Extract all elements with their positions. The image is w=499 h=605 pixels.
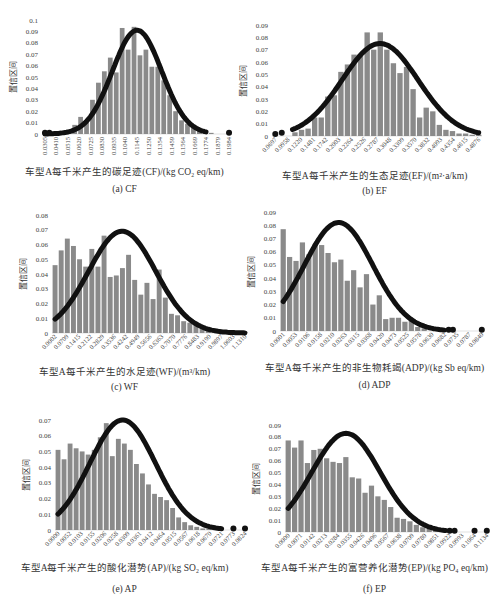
histogram-bar <box>407 521 412 532</box>
y-tick-label: 0 <box>265 133 269 141</box>
x-tick-label: 0.0410 <box>52 137 59 155</box>
y-axis-label: 置信区间 <box>238 65 248 97</box>
y-tick-label: 0.01 <box>26 119 39 127</box>
fit-point-marker <box>46 130 52 136</box>
x-tick-label: 0.1134 <box>472 531 490 549</box>
fit-point-marker <box>479 327 485 333</box>
histogram-bar <box>382 500 387 532</box>
histogram-bar <box>108 277 113 333</box>
y-tick-label: 0.06 <box>269 457 282 465</box>
y-tick-label: 0.08 <box>269 433 282 441</box>
y-tick-label: 0.06 <box>39 432 52 440</box>
histogram-bar <box>430 111 435 136</box>
histogram-bar <box>161 80 166 134</box>
y-tick-label: 0.02 <box>269 505 282 513</box>
histogram-bar <box>59 250 64 333</box>
histogram-bar <box>293 261 298 331</box>
histogram-bar <box>415 327 420 331</box>
histogram-bar <box>343 457 348 532</box>
histogram-bar <box>114 275 119 333</box>
y-tick-label: 0.03 <box>26 96 39 104</box>
histogram-bar <box>209 133 214 134</box>
histogram-bar <box>351 270 356 331</box>
y-tick-label: 0.04 <box>36 271 49 279</box>
x-tick-label: 0.1669 <box>191 137 198 155</box>
chart-cf: 00.010.020.030.040.050.060.070.080.090.1… <box>0 0 249 180</box>
histogram-bar <box>138 55 143 134</box>
histogram-bar <box>377 295 382 331</box>
histogram-bar <box>319 118 324 137</box>
histogram-bar <box>95 267 100 333</box>
histogram-bar <box>132 280 137 333</box>
histogram-bar <box>414 525 419 532</box>
x-axis-label-wf: 车型A每千米产生的水足迹(WF)/(m³/km) <box>0 364 249 378</box>
fit-point-marker <box>226 130 232 136</box>
histogram-bar <box>338 260 343 331</box>
histogram-bar <box>319 245 324 331</box>
x-tick-label: 0.1145 <box>133 137 140 155</box>
x-axis-label-ap: 车型A每千米产生的酸化潜势(AP)/(kg SO₂ eq/km) <box>0 560 249 574</box>
x-tick-label: 0.0935 <box>110 137 117 155</box>
histogram-bar <box>370 305 375 331</box>
histogram-bar <box>292 132 297 136</box>
y-tick-label: 0.05 <box>269 469 282 477</box>
histogram-bar <box>404 67 409 136</box>
y-tick-label: 0.04 <box>256 83 269 91</box>
histogram-bar <box>170 508 175 530</box>
histogram-bar <box>122 444 127 530</box>
histogram-bar <box>299 130 304 136</box>
histogram-bar <box>188 525 193 530</box>
histogram-bar <box>155 67 160 134</box>
y-tick-label: 0.06 <box>26 62 39 70</box>
caption-cf: (a) CF <box>0 184 249 194</box>
histogram-bar <box>179 120 184 134</box>
histogram-bar <box>337 463 342 532</box>
histogram-bar <box>388 507 393 532</box>
fit-point-marker <box>484 528 490 534</box>
histogram-bar <box>324 458 329 532</box>
y-tick-label: 0.06 <box>256 59 269 67</box>
y-tick-label: 0.05 <box>26 74 39 82</box>
normal-fit-curve <box>45 30 206 134</box>
histogram-bar <box>401 519 406 532</box>
histogram-bar <box>114 72 119 134</box>
y-tick-label: 0.04 <box>269 481 282 489</box>
y-tick-label: 0.02 <box>26 108 39 116</box>
histogram-bar <box>306 254 311 331</box>
x-tick-label: 0.0515 <box>64 137 71 155</box>
y-axis-label: 置信区间 <box>251 463 261 495</box>
x-tick-label: 0.4876 <box>464 135 482 153</box>
histogram-bar <box>146 484 151 530</box>
histogram-bar <box>134 464 139 530</box>
histogram-bar <box>420 527 425 532</box>
histogram-bar <box>357 287 362 331</box>
x-tick-label: 0.1459 <box>168 137 175 155</box>
histogram-bar <box>362 493 367 532</box>
histogram-bar <box>424 108 429 136</box>
histogram-bar <box>68 444 73 530</box>
histogram-bar <box>128 450 133 530</box>
chart-panel-ep: 00.010.020.030.040.050.060.070.080.09置信区… <box>250 410 499 605</box>
y-tick-label: 0.07 <box>264 235 277 243</box>
chart-panel-adp: 00.010.020.030.040.050.060.070.080.09置信区… <box>250 200 499 410</box>
y-tick-label: 0.01 <box>264 314 277 322</box>
histogram-bar <box>375 496 380 532</box>
x-axis-label-cf: 车型A每千米产生的碳足迹(CF)/(kg CO₂ eq/km) <box>0 164 249 178</box>
y-tick-label: 0.09 <box>256 22 269 30</box>
histogram-bar <box>144 50 149 134</box>
x-tick-label: 0.0620 <box>75 137 82 155</box>
x-tick-label: 0.0830 <box>98 137 105 155</box>
chart-ef: 00.010.020.030.040.050.060.070.080.09置信区… <box>250 0 499 180</box>
y-tick-label: 0.09 <box>269 422 282 430</box>
histogram-bar <box>126 255 131 333</box>
x-axis-label-ep: 车型A每千米产生的富营养化潜势(EP)/(kg PO₄ eq/km) <box>250 560 499 574</box>
histogram-bar <box>181 321 186 333</box>
x-tick-label: 0.1564 <box>179 136 186 155</box>
histogram-bar <box>173 111 178 134</box>
fit-point-marker <box>450 327 456 333</box>
x-tick-label: 0.1879 <box>214 137 221 155</box>
chart-wf: 00.010.020.030.040.050.060.070.08置信区间0.0… <box>0 200 249 380</box>
histogram-bar <box>158 497 163 530</box>
y-tick-label: 0.07 <box>269 445 282 453</box>
histogram-bar <box>149 67 154 134</box>
